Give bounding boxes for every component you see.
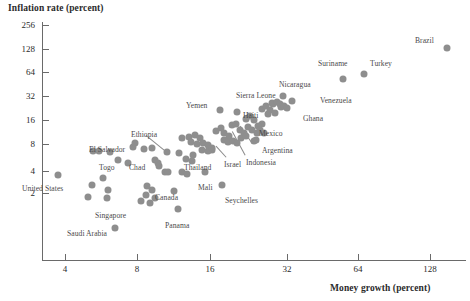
point-label-mexico: Mexico [259, 129, 283, 138]
data-point [176, 150, 183, 157]
y-tick-mark [42, 171, 49, 172]
point-label-israel: Israel [224, 160, 241, 169]
y-tick-mark [42, 25, 49, 26]
point-label-thailand: Thailand [184, 163, 211, 172]
point-label-panama: Panama [165, 221, 189, 230]
y-tick-mark [42, 120, 49, 121]
y-tick-mark [42, 144, 49, 145]
data-point [100, 175, 107, 182]
data-point [143, 192, 150, 199]
data-point [217, 107, 224, 114]
point-label-sierra-leone: Sierra Leone [236, 91, 276, 100]
data-point [289, 98, 296, 105]
point-label-indonesia: Indonesia [246, 158, 276, 167]
data-point [219, 182, 226, 189]
point-label-united-states: United States [22, 184, 63, 193]
x-tick-mark [65, 254, 66, 260]
point-label-saudi-arabia: Saudi Arabia [67, 229, 107, 238]
data-point [175, 206, 182, 213]
point-label-ghana: Ghana [303, 114, 323, 123]
y-tick-mark [42, 72, 49, 73]
x-tick-mark [287, 254, 288, 260]
y-tick-mark [42, 49, 49, 50]
data-point [89, 182, 96, 189]
data-point [132, 140, 139, 147]
point-label-chad: Chad [129, 163, 145, 172]
data-point [280, 93, 287, 100]
x-axis-title: Money growth (percent) [330, 283, 431, 293]
point-label-ethiopia: Ethiopia [131, 130, 157, 139]
point-label-haiti: Haiti [243, 111, 258, 120]
x-tick-label: 32 [283, 264, 292, 274]
point-label-togo: Togo [99, 163, 115, 172]
point-label-el-salvador: El Salvador [89, 145, 125, 154]
y-tick-label: 32 [9, 91, 35, 101]
data-point [115, 157, 122, 164]
x-tick-mark [210, 254, 211, 260]
data-point [138, 198, 145, 205]
x-axis-line [42, 260, 466, 261]
x-tick-label: 64 [354, 264, 363, 274]
y-tick-label: 8 [9, 139, 35, 149]
point-label-singapore: Singapore [95, 211, 126, 220]
y-tick-mark [42, 193, 49, 194]
data-point [85, 194, 92, 201]
data-point [144, 183, 151, 190]
y-tick-mark [42, 96, 49, 97]
data-point [243, 133, 250, 140]
data-point [265, 111, 272, 118]
point-label-brazil: Brazil [415, 36, 434, 45]
point-label-venezuela: Venezuela [320, 96, 352, 105]
point-label-turkey: Turkey [370, 59, 392, 68]
data-point [104, 195, 111, 202]
x-tick-label: 16 [206, 264, 215, 274]
x-tick-label: 128 [423, 264, 437, 274]
point-label-seychelles: Seychelles [225, 196, 258, 205]
y-axis-title: Inflation rate (percent) [8, 3, 104, 13]
y-tick-label: 4 [9, 166, 35, 176]
data-point [179, 135, 186, 142]
data-point [149, 145, 156, 152]
y-tick-label: 64 [9, 67, 35, 77]
y-tick-label: 256 [9, 20, 35, 30]
data-point [164, 149, 171, 156]
y-tick-label: 16 [9, 115, 35, 125]
x-tick-label: 4 [63, 264, 68, 274]
data-point [141, 146, 148, 153]
data-point [234, 109, 241, 116]
point-label-suriname: Suriname [318, 59, 348, 68]
point-label-canada: Canada [155, 193, 178, 202]
data-point [272, 110, 279, 117]
point-label-yemen: Yemen [186, 101, 207, 110]
data-point [105, 187, 112, 194]
x-tick-label: 8 [135, 264, 140, 274]
data-point [55, 172, 62, 179]
leader-line-israel [216, 146, 227, 157]
x-tick-mark [137, 254, 138, 260]
x-tick-mark [358, 254, 359, 260]
y-axis-line [42, 22, 43, 260]
point-label-mali: Mali [198, 183, 213, 192]
data-point [209, 145, 216, 152]
y-tick-label: 128 [9, 44, 35, 54]
data-point [156, 163, 163, 170]
point-label-argentina: Argentina [262, 146, 293, 155]
data-point [361, 71, 368, 78]
scatter-chart: Inflation rate (percent) Money growth (p… [0, 0, 470, 301]
data-point [165, 169, 172, 176]
point-label-nicaragua: Nicaragua [279, 80, 311, 89]
data-point [112, 225, 119, 232]
x-tick-mark [430, 254, 431, 260]
data-point [340, 76, 347, 83]
data-point [284, 105, 291, 112]
data-point [444, 45, 451, 52]
